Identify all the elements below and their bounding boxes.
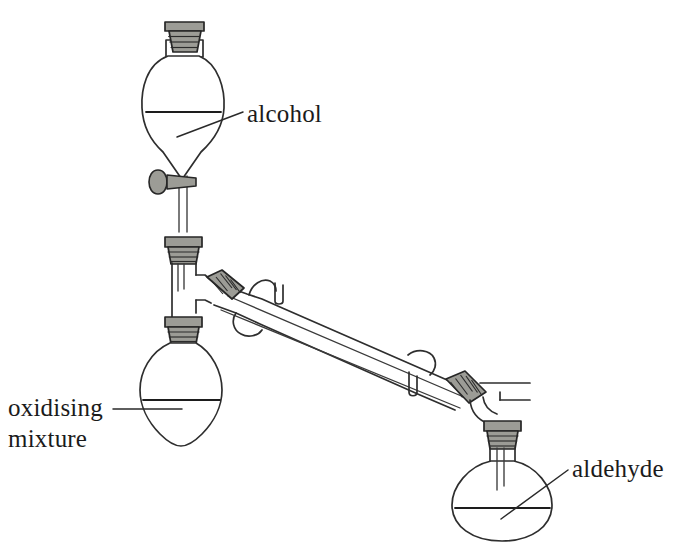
condenser-water-outlet (275, 283, 283, 304)
oxidising-mixture-label-line1: oxidising (8, 394, 103, 421)
alcohol-label: alcohol (247, 100, 322, 127)
lower-joint-collar (165, 317, 202, 327)
t-piece-upper-joint (165, 237, 202, 264)
receiver-joint-collar (484, 421, 521, 431)
condenser-inner-tube-upper (228, 296, 466, 398)
condenser-jacket-lower-wall (214, 305, 455, 410)
condenser-lower-bulge (408, 351, 435, 375)
t-piece-lower-joint (165, 317, 202, 344)
condenser-upper-bulge (249, 280, 276, 295)
funnel-body (142, 56, 224, 178)
condenser-inner-tube-lower (221, 310, 460, 408)
pear-shaped-reaction-flask (140, 343, 222, 446)
upper-joint-collar (165, 237, 202, 247)
dropping-funnel (142, 22, 224, 232)
t-piece-side-arm-bottom (196, 300, 211, 303)
stopper-cap (165, 22, 204, 31)
chemistry-apparatus-diagram: alcohol oxidising mixture aldehyde (0, 0, 686, 543)
aldehyde-label: aldehyde (572, 455, 664, 482)
adapter-bend-inner (483, 397, 497, 414)
t-piece-adapter (165, 237, 217, 344)
apparatus-drawing: alcohol oxidising mixture aldehyde (0, 0, 686, 543)
stopcock-plug[interactable] (167, 175, 196, 189)
liebig-condenser (207, 270, 486, 410)
receiver-joint (484, 421, 521, 449)
receiver-flask-body (452, 461, 552, 541)
condenser-jacket-upper-wall (222, 285, 470, 390)
stopcock-tap[interactable] (149, 170, 196, 194)
ground-glass-stopper (165, 22, 204, 52)
condenser-upper-joint (207, 270, 244, 299)
reaction-flask-body (140, 343, 222, 446)
stopcock-handle[interactable] (149, 170, 167, 194)
condenser-lower-joint (446, 371, 486, 403)
round-bottom-receiving-flask (452, 421, 552, 541)
oxidising-mixture-label-line2: mixture (8, 425, 87, 452)
condenser-lower-joint-body (446, 371, 486, 403)
condenser-upper-joint-body (207, 270, 244, 299)
